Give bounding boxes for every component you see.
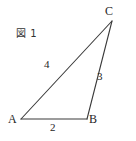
- side-length-label-ab: 2: [50, 122, 56, 133]
- side-length-label-ac: 4: [44, 59, 50, 70]
- vertex-label-b: B: [89, 113, 97, 125]
- vertex-label-c: C: [105, 5, 113, 17]
- figure-caption: 図 1: [16, 29, 37, 39]
- vertex-label-a: A: [8, 113, 17, 125]
- figure-container: 図 1 A B C 2 4 3: [0, 0, 136, 141]
- side-length-label-bc: 3: [97, 71, 103, 82]
- triangle-diagram: [0, 0, 136, 141]
